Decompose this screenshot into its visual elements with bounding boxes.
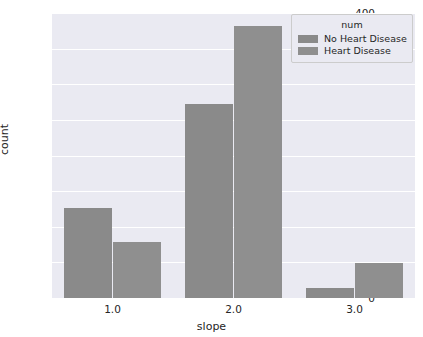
legend-swatch: [298, 47, 318, 55]
legend-label: Heart Disease: [324, 45, 391, 56]
bar: [234, 26, 282, 298]
x-axis-label: slope: [0, 320, 423, 333]
x-tick-label: 2.0: [225, 303, 242, 315]
legend-entry: No Heart Disease: [298, 33, 406, 44]
bar: [64, 208, 112, 298]
bar: [306, 288, 354, 298]
legend-entry: Heart Disease: [298, 45, 406, 56]
y-axis-label: count: [0, 124, 11, 155]
bar: [355, 263, 403, 298]
x-tick-label: 3.0: [346, 303, 363, 315]
legend-title: num: [298, 19, 406, 30]
bar: [185, 104, 233, 298]
bar: [113, 242, 161, 298]
legend-swatch: [298, 35, 318, 43]
legend: num No Heart DiseaseHeart Disease: [291, 14, 413, 63]
legend-label: No Heart Disease: [324, 33, 407, 44]
legend-entries: No Heart DiseaseHeart Disease: [298, 33, 406, 56]
bar-chart-figure: count 050100150200250300350400 1.02.03.0…: [0, 0, 423, 337]
x-tick-label: 1.0: [104, 303, 121, 315]
